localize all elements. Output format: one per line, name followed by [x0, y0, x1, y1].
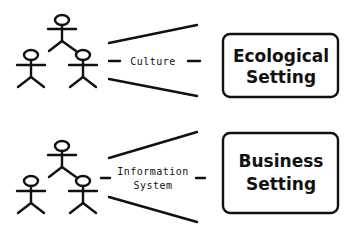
business-setting-box — [223, 133, 338, 213]
connector-label-culture: Culture — [130, 56, 176, 67]
diagram-canvas: Culture Ecological Setting — [0, 0, 350, 236]
actor-icon — [48, 141, 76, 177]
actor-icon — [69, 50, 97, 87]
connector-label-information: Information — [117, 166, 189, 177]
connector-line-upper — [109, 132, 197, 158]
box-label-line2: Setting — [246, 174, 316, 194]
connector-label-system: System — [133, 180, 172, 191]
actor-icon — [17, 50, 45, 87]
box-label-line1: Business — [239, 151, 324, 171]
box-label-line1: Ecological — [233, 46, 329, 66]
actor-icon — [48, 15, 76, 51]
connector-line-upper — [109, 25, 197, 43]
connector-line-lower — [109, 79, 197, 96]
box-label-line2: Setting — [246, 67, 316, 87]
connector-line-lower — [109, 197, 197, 222]
actor-icon — [17, 176, 45, 213]
actor-icon — [69, 176, 97, 213]
